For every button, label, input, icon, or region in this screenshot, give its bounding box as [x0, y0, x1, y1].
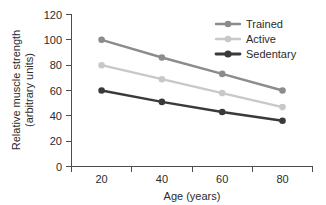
- data-point-sedentary-60: [219, 109, 226, 116]
- y-axis-title-line1: Relative muscle strength: [10, 30, 22, 150]
- y-tick-label-80: 80: [50, 59, 62, 71]
- legend-marker-active: [225, 36, 232, 43]
- y-tick-label-60: 60: [50, 85, 62, 97]
- x-axis-ticks: [72, 167, 313, 173]
- x-tick-label-60: 60: [216, 173, 228, 185]
- legend-item-sedentary: Sedentary: [216, 48, 297, 60]
- y-tick-label-120: 120: [44, 9, 62, 21]
- legend-marker-sedentary: [224, 50, 231, 57]
- legend-marker-trained: [225, 21, 232, 28]
- y-tick-label-0: 0: [56, 161, 62, 173]
- x-tick-label-80: 80: [276, 173, 288, 185]
- chart-page: 0 20 40 60 80 100 120 20 40 60 80 Age (y…: [0, 0, 326, 205]
- x-axis-title: Age (years): [164, 190, 221, 202]
- data-point-sedentary-40: [159, 99, 166, 106]
- data-point-trained-60: [219, 71, 226, 78]
- data-point-trained-80: [279, 87, 286, 94]
- chart-legend: Trained Active Sedentary: [216, 18, 297, 60]
- legend-label-trained: Trained: [246, 18, 283, 30]
- legend-item-active: Active: [216, 33, 276, 45]
- legend-item-trained: Trained: [216, 18, 283, 30]
- data-point-active-80: [279, 104, 286, 111]
- y-axis-title-line2: (arbitrary units): [23, 53, 35, 127]
- data-point-active-60: [219, 90, 226, 97]
- y-axis-ticks: [66, 15, 72, 167]
- data-point-trained-20: [98, 37, 105, 44]
- legend-label-active: Active: [246, 33, 276, 45]
- series-sedentary: [98, 87, 286, 124]
- data-point-active-40: [159, 76, 166, 83]
- data-point-active-20: [98, 62, 105, 69]
- data-point-sedentary-80: [279, 118, 286, 125]
- y-tick-label-40: 40: [50, 110, 62, 122]
- x-tick-label-40: 40: [156, 173, 168, 185]
- y-tick-label-20: 20: [50, 135, 62, 147]
- x-tick-label-20: 20: [95, 173, 107, 185]
- data-point-sedentary-20: [98, 87, 105, 94]
- muscle-strength-line-chart: 0 20 40 60 80 100 120 20 40 60 80 Age (y…: [0, 0, 326, 205]
- series-active: [98, 62, 286, 110]
- data-point-trained-40: [159, 54, 166, 61]
- y-tick-label-100: 100: [44, 34, 62, 46]
- legend-label-sedentary: Sedentary: [246, 48, 297, 60]
